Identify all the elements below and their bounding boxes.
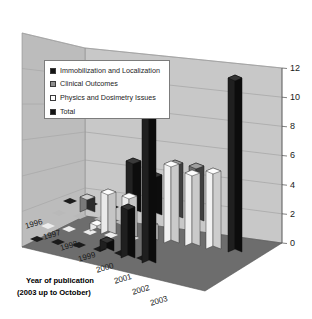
y-tick-10: 10 [290, 92, 300, 102]
y-axis-ticks [282, 68, 287, 244]
y-tick-12: 12 [290, 63, 300, 73]
bar-2001-total [121, 204, 135, 258]
bar-2003-physics [206, 168, 221, 249]
chart-svg [0, 0, 312, 319]
y-tick-6: 6 [290, 150, 295, 160]
chart-screenshot: Immobilization and Localization Clinical… [0, 0, 312, 319]
legend-item-physics-dosimetry: Physics and Dosimetry Issues [50, 91, 165, 105]
bar-1998-clinical [80, 194, 95, 212]
bar-1999-physics [101, 189, 116, 234]
legend-swatch-total [50, 109, 56, 115]
legend-label-immobilization: Immobilization and Localization [60, 67, 160, 75]
bar-group-1999 [100, 189, 116, 251]
y-tick-0: 0 [290, 238, 295, 248]
legend-item-clinical-outcomes: Clinical Outcomes [50, 78, 165, 92]
chart-3d-scene [0, 0, 312, 319]
chart-legend: Immobilization and Localization Clinical… [44, 60, 170, 119]
legend-swatch-clinical-outcomes [50, 81, 56, 87]
x-axis-title-line1: Year of publication [26, 276, 94, 287]
legend-swatch-immobilization [50, 68, 56, 74]
bar-2002-clinical [164, 161, 179, 243]
y-tick-2: 2 [290, 209, 295, 219]
legend-item-immobilization: Immobilization and Localization [50, 64, 165, 78]
bar-2003-clinical [185, 170, 200, 246]
legend-label-clinical-outcomes: Clinical Outcomes [60, 80, 118, 88]
y-tick-4: 4 [290, 180, 295, 190]
y-tick-8: 8 [290, 121, 295, 131]
legend-item-total: Total [50, 105, 165, 119]
x-axis-title-line2: (2003 up to October) [17, 288, 91, 299]
legend-label-physics-dosimetry: Physics and Dosimetry Issues [60, 94, 156, 102]
legend-label-total: Total [60, 108, 75, 116]
legend-swatch-physics-dosimetry [50, 95, 56, 101]
bar-2003-total [228, 75, 242, 252]
